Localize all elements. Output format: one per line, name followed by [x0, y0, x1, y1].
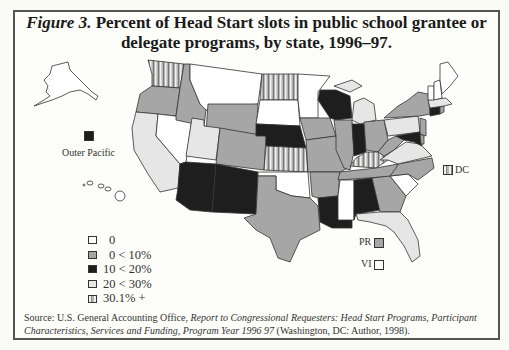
legend-label: 10 < 20%: [103, 262, 152, 277]
state-in: [352, 124, 366, 156]
state-ar: [310, 172, 340, 198]
legend-swatch-10-20: [88, 265, 97, 273]
us-map: [0, 0, 509, 350]
source-suffix: (Washington, DC: Author, 1998).: [274, 325, 410, 336]
legend-item: 0 < 10%: [88, 248, 152, 263]
state-nj: [420, 118, 426, 136]
vi-label: VI: [361, 258, 372, 269]
state-or: [136, 86, 180, 116]
state-nd: [260, 74, 298, 100]
vi-swatch: [374, 260, 384, 270]
legend-label: 30.1% +: [103, 291, 145, 306]
dc-swatch: [443, 165, 453, 175]
state-ri: [440, 106, 444, 114]
state-az: [176, 162, 216, 212]
state-nm: [212, 164, 258, 214]
state-ny: [384, 92, 430, 118]
legend-swatch-30plus: [88, 295, 97, 303]
outer-pacific-label: Outer Pacific: [62, 147, 115, 158]
legend-label: 20 < 30%: [103, 277, 152, 292]
source-note: Source: U.S. General Accounting Office, …: [24, 311, 494, 337]
state-ak: [34, 62, 98, 106]
state-wa: [148, 60, 184, 88]
legend-swatch-20-30: [88, 280, 97, 288]
pr-label: PR: [359, 236, 371, 247]
legend-swatch-0: [88, 236, 97, 244]
legend-swatch-0-10: [88, 251, 97, 259]
legend: 0 0 < 10% 10 < 20% 20 < 30% 30.1% +: [88, 233, 152, 306]
state-ms: [338, 180, 354, 220]
legend-item: 30.1% +: [88, 291, 152, 306]
source-prefix: Source: U.S. General Accounting Office,: [24, 312, 190, 323]
state-de: [420, 134, 424, 144]
state-wi: [318, 90, 352, 120]
legend-item: 10 < 20%: [88, 262, 152, 277]
outer-pacific-swatch: [84, 131, 94, 141]
dc-label: DC: [455, 164, 469, 175]
legend-item: 0: [88, 233, 152, 248]
state-vt: [428, 86, 434, 100]
state-hi: [83, 181, 125, 201]
state-mt: [190, 64, 262, 110]
legend-item: 20 < 30%: [88, 277, 152, 292]
state-ks: [264, 146, 308, 172]
state-sd: [256, 100, 300, 126]
legend-label: 0: [109, 233, 115, 248]
pr-swatch: [374, 238, 384, 248]
state-me: [440, 62, 458, 94]
legend-label: 0 < 10%: [109, 248, 151, 263]
